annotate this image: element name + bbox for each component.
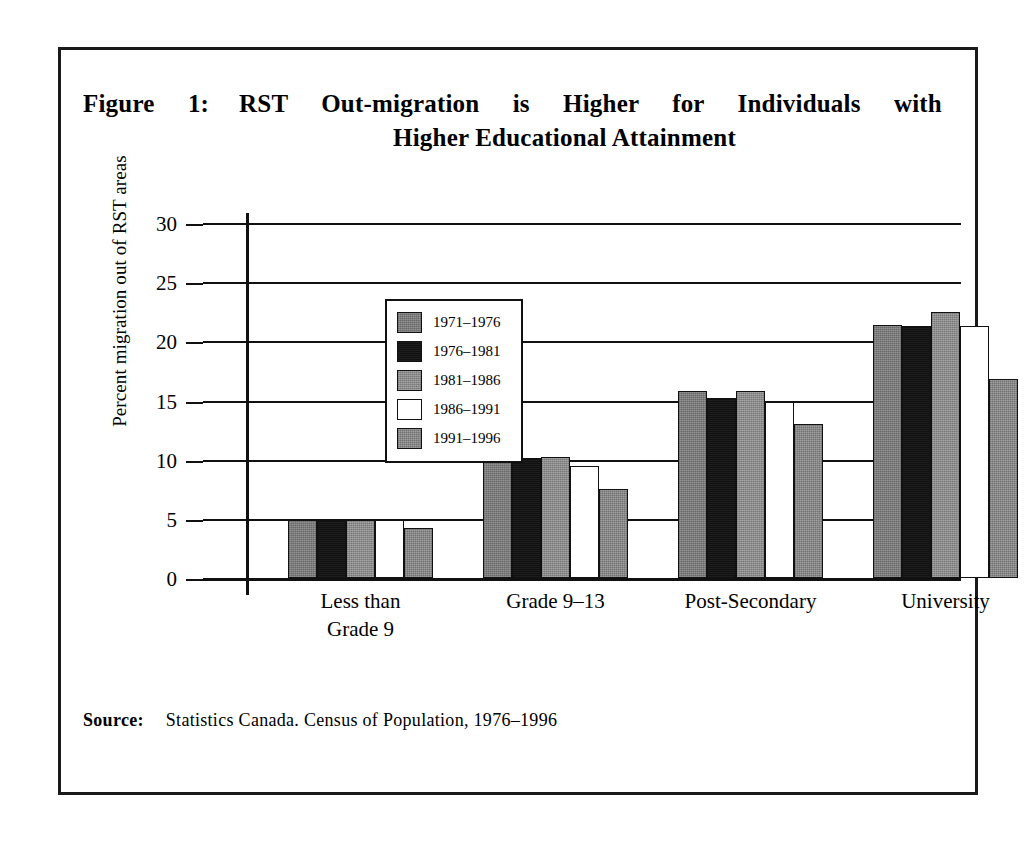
bar	[794, 424, 823, 578]
source-text: Statistics Canada. Census of Population,…	[166, 710, 557, 730]
y-axis-tick	[186, 579, 203, 581]
bar	[707, 398, 736, 578]
legend-swatch	[397, 399, 422, 420]
bar	[989, 379, 1018, 578]
legend-item: 1971–1976	[397, 308, 511, 337]
source-label: Source:	[83, 710, 144, 730]
legend-swatch	[397, 428, 422, 449]
legend-item: 1976–1981	[397, 337, 511, 366]
legend-item: 1986–1991	[397, 395, 511, 424]
y-axis-tick-label: 10	[156, 449, 177, 474]
legend-item: 1991–1996	[397, 424, 511, 453]
y-axis-tick-label: 5	[167, 508, 178, 533]
legend-swatch	[397, 370, 422, 391]
x-axis-line	[203, 578, 961, 581]
bar	[960, 326, 989, 578]
bars-layer	[203, 223, 961, 578]
y-axis-tick-label: 30	[156, 212, 177, 237]
source-line: Source:Statistics Canada. Census of Popu…	[83, 710, 557, 731]
x-axis-category-label: University	[836, 588, 1030, 616]
bar	[902, 326, 931, 578]
bar	[678, 391, 707, 578]
bar	[599, 489, 628, 578]
bar	[346, 520, 375, 578]
chart-legend: 1971–19761976–19811981–19861986–19911991…	[385, 299, 523, 463]
bar	[873, 325, 902, 578]
bar	[483, 457, 512, 578]
legend-label: 1981–1986	[433, 372, 501, 389]
plot-area: 051015202530 Less than Grade 9Grade 9–13…	[203, 223, 961, 578]
y-axis-tick	[186, 224, 203, 226]
bar	[931, 312, 960, 578]
bar	[570, 466, 599, 578]
legend-label: 1986–1991	[433, 401, 501, 418]
y-axis-tick	[186, 342, 203, 344]
legend-swatch	[397, 341, 422, 362]
y-axis-tick	[186, 402, 203, 404]
bar	[404, 528, 433, 578]
y-axis-tick-label: 0	[167, 567, 178, 592]
y-axis-title: Percent migration out of RST areas	[109, 136, 131, 446]
bar	[512, 458, 541, 578]
x-axis-category-label: Grade 9–13	[446, 588, 666, 616]
bar	[375, 520, 404, 578]
legend-label: 1976–1981	[433, 343, 501, 360]
y-axis-tick-label: 20	[156, 330, 177, 355]
bar	[541, 457, 570, 578]
y-axis-tick-label: 15	[156, 390, 177, 415]
y-axis-tick	[186, 461, 203, 463]
legend-label: 1991–1996	[433, 430, 501, 447]
x-axis-category-label: Less than Grade 9	[251, 588, 471, 644]
y-axis-tick	[186, 520, 203, 522]
legend-item: 1981–1986	[397, 366, 511, 395]
bar	[317, 520, 346, 578]
y-axis-tick-label: 25	[156, 271, 177, 296]
chart-plot-wrapper: Percent migration out of RST areas 05101…	[61, 50, 975, 792]
legend-label: 1971–1976	[433, 314, 501, 331]
bar	[765, 402, 794, 578]
x-axis-category-label: Post-Secondary	[641, 588, 861, 616]
y-axis-tick	[186, 283, 203, 285]
bar	[288, 520, 317, 578]
bar	[736, 391, 765, 578]
figure-frame: Figure 1:RST Out-migration is Higher for…	[58, 47, 978, 795]
legend-swatch	[397, 312, 422, 333]
